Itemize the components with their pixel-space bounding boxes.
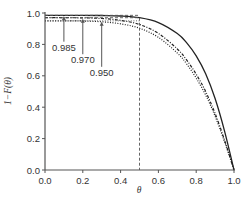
y-axis-title: 1−F(θ) <box>3 77 14 105</box>
x-axis-ticks: 0.00.20.40.60.81.0 <box>38 170 240 186</box>
x-tick-label: 0.6 <box>152 175 165 186</box>
annotation-label: 0.970 <box>71 54 95 65</box>
y-tick-label: 0.2 <box>27 133 40 144</box>
x-tick-label: 0.8 <box>190 175 203 186</box>
annotation-label: 0.985 <box>52 42 76 53</box>
axes <box>45 12 235 170</box>
x-axis-title: θ <box>137 185 142 195</box>
y-tick-label: 0.6 <box>27 70 40 81</box>
y-tick-label: 1.0 <box>27 8 40 19</box>
annotation-label: 0.950 <box>90 67 114 78</box>
x-tick-label: 0.0 <box>38 175 51 186</box>
y-tick-label: 0.0 <box>27 165 40 176</box>
x-tick-label: 0.4 <box>114 175 127 186</box>
annotations: 0.9850.9700.950 <box>52 16 114 77</box>
chart: 0.00.20.40.60.81.0 0.00.20.40.60.81.0 0.… <box>0 0 252 206</box>
arrowhead-icon <box>62 16 66 20</box>
x-tick-label: 0.2 <box>76 175 89 186</box>
y-tick-label: 0.8 <box>27 39 40 50</box>
y-tick-label: 0.4 <box>27 102 40 113</box>
y-axis-ticks: 0.00.20.40.60.81.0 <box>27 8 45 176</box>
reference-lines <box>45 15 140 170</box>
x-tick-label: 1.0 <box>227 175 240 186</box>
